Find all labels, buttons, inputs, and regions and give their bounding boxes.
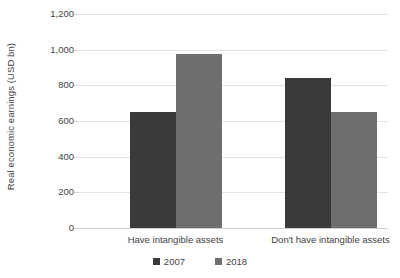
y-axis-tick-label: 600 [26,116,74,126]
legend-label: 2007 [164,256,185,267]
y-axis-tick-label: 1,200 [26,9,74,19]
y-axis-title-text: Real economic earnings (USD bn) [6,42,17,189]
y-axis-tick-label: 400 [26,152,74,162]
y-axis-tick-label: 200 [26,187,74,197]
bar-2007-1 [130,112,176,228]
x-axis-category-label: Don't have intangible assets [241,234,400,245]
legend-swatch-icon [215,258,222,265]
bar-2018-1 [176,54,222,228]
y-axis-tick-label: 0 [26,223,74,233]
chart-legend: 20072018 [0,256,400,267]
bar-2018-2 [331,112,377,228]
y-axis-tick-label: 800 [26,80,74,90]
y-axis-title: Real economic earnings (USD bn) [0,0,22,232]
bar-2007-2 [285,78,331,228]
x-axis-baseline [78,228,388,229]
y-axis-tick-labels: 02004006008001,0001,200 [22,0,74,278]
bars-layer [78,14,388,228]
legend-item-2007[interactable]: 2007 [153,256,185,267]
y-axis-tick-label: 1,000 [26,45,74,55]
legend-swatch-icon [153,258,160,265]
x-axis-category-label: Have intangible assets [86,234,266,245]
bar-chart: Real economic earnings (USD bn) 02004006… [0,0,400,278]
legend-label: 2018 [226,256,247,267]
legend-item-2018[interactable]: 2018 [215,256,247,267]
